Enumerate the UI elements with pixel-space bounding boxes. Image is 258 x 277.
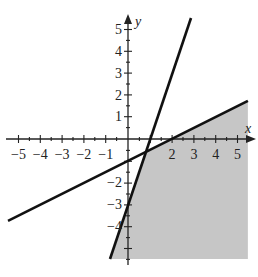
x-axis-label: x	[244, 121, 252, 136]
x-tick-label: −1	[98, 147, 113, 162]
coordinate-plane: −5 −4 −3 −2 −1 2 3 4 5 5 4 3 2 1 −2 −3 −…	[0, 0, 258, 277]
x-tick-label: −4	[33, 147, 48, 162]
y-tick-label: 4	[115, 44, 122, 59]
x-tick-label: 3	[190, 147, 197, 162]
y-axis-arrow-icon	[124, 14, 132, 24]
y-tick-label: 3	[115, 66, 122, 81]
shaded-solution-region	[110, 101, 248, 259]
x-axis-arrow-icon	[246, 135, 256, 143]
y-tick-label: −4	[107, 219, 122, 234]
y-tick-label: 5	[115, 22, 122, 37]
y-tick-label: −2	[107, 175, 122, 190]
y-axis-label: y	[133, 14, 142, 29]
y-tick-label: −3	[107, 197, 122, 212]
x-tick-label: 5	[234, 147, 241, 162]
x-tick-label: −3	[55, 147, 70, 162]
y-tick-label: 2	[115, 88, 122, 103]
y-tick-label: 1	[115, 109, 122, 124]
x-tick-label: 2	[169, 147, 176, 162]
y-tick-labels: 5 4 3 2 1 −2 −3 −4	[107, 22, 122, 234]
x-tick-label: −5	[11, 147, 26, 162]
x-tick-label: −2	[76, 147, 91, 162]
x-tick-label: 4	[212, 147, 219, 162]
